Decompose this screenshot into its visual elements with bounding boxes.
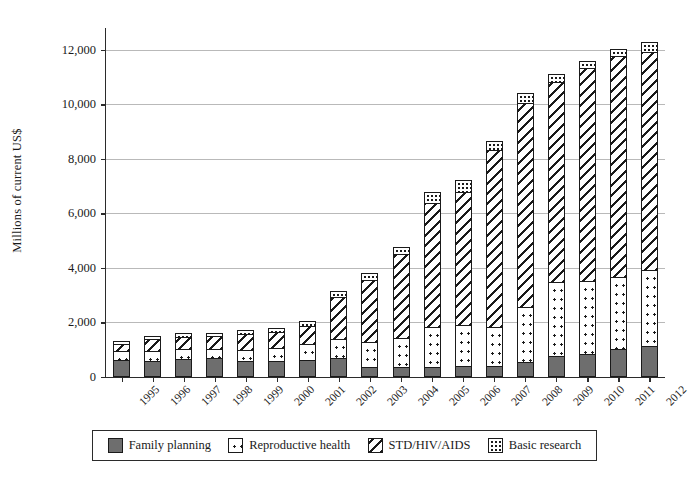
bar-segment-std-hiv-aids (455, 192, 472, 326)
bar-segment-std-hiv-aids (144, 339, 161, 351)
x-axis-tick-label: 2012 (664, 383, 689, 408)
bar-segment-family-planning (455, 366, 472, 377)
x-axis-tick (277, 377, 278, 382)
bar-2002 (330, 291, 347, 377)
x-axis-tick (153, 377, 154, 382)
bar-segment-std-hiv-aids (393, 254, 410, 338)
x-axis-tick (339, 377, 340, 382)
bar-segment-basic-research (175, 333, 192, 336)
legend-swatch-icon (108, 438, 123, 453)
bar-segment-basic-research (641, 42, 658, 52)
x-axis-tick (587, 377, 588, 382)
legend-item-basic-research[interactable]: Basic research (488, 438, 582, 453)
bar-segment-family-planning (548, 356, 565, 377)
x-axis-tick-label: 1998 (229, 383, 254, 408)
legend-item-family-planning[interactable]: Family planning (108, 438, 211, 453)
x-axis-tick-label: 2008 (540, 383, 565, 408)
y-axis-line (105, 28, 106, 377)
y-axis-tick (101, 213, 106, 214)
x-axis-tick-label: 2004 (416, 383, 441, 408)
y-axis-tick (101, 159, 106, 160)
x-axis-tick (649, 377, 650, 382)
legend-swatch-icon (488, 438, 503, 453)
bar-segment-std-hiv-aids (579, 68, 596, 280)
y-axis-tick-label: 2,000 (24, 315, 96, 330)
bar-segment-basic-research (579, 61, 596, 68)
bar-segment-reproductive-health (268, 348, 285, 361)
y-axis-tick (101, 377, 106, 378)
x-axis-tick-label: 2009 (571, 383, 596, 408)
x-axis-tick-label: 2006 (478, 383, 503, 408)
x-axis-tick (463, 377, 464, 382)
bar-segment-family-planning (144, 361, 161, 377)
bar-1997 (175, 333, 192, 377)
x-axis-tick (308, 377, 309, 382)
x-axis-tick-label: 2007 (509, 383, 534, 408)
x-axis-tick-label: 1996 (167, 383, 192, 408)
legend-swatch-icon (228, 438, 243, 453)
bar-segment-basic-research (610, 49, 627, 56)
y-axis-tick-label: 8,000 (24, 151, 96, 166)
x-axis-tick (215, 377, 216, 382)
bar-segment-std-hiv-aids (237, 334, 254, 350)
bar-2003 (361, 273, 378, 377)
x-axis-tick-label: 2002 (354, 383, 379, 408)
bar-segment-reproductive-health (113, 351, 130, 360)
y-axis-tick-label: 0 (24, 370, 96, 385)
chart-legend: Family planningReproductive healthSTD/HI… (92, 430, 597, 461)
y-axis-tick (101, 268, 106, 269)
bar-2007 (486, 141, 503, 377)
x-axis-tick-label: 2011 (633, 383, 657, 407)
x-axis-tick (618, 377, 619, 382)
plot-area (106, 28, 665, 377)
legend-item-std-hiv-aids[interactable]: STD/HIV/AIDS (368, 438, 471, 453)
y-axis-tick (101, 104, 106, 105)
bar-segment-basic-research (455, 180, 472, 191)
bar-segment-family-planning (424, 367, 441, 377)
bar-segment-std-hiv-aids (610, 56, 627, 277)
x-axis-tick (246, 377, 247, 382)
bar-segment-std-hiv-aids (206, 336, 223, 349)
bar-2006 (455, 180, 472, 377)
x-axis-tick (401, 377, 402, 382)
bar-segment-reproductive-health (175, 349, 192, 359)
bar-segment-reproductive-health (361, 342, 378, 367)
bar-segment-std-hiv-aids (299, 326, 316, 344)
bar-segment-reproductive-health (299, 344, 316, 361)
x-axis-tick-label: 1995 (136, 383, 161, 408)
bar-1995 (113, 341, 130, 377)
bar-segment-basic-research (268, 328, 285, 332)
bar-segment-family-planning (299, 360, 316, 377)
bar-2010 (579, 61, 596, 377)
bar-segment-reproductive-health (548, 282, 565, 356)
x-axis-tick (432, 377, 433, 382)
bar-segment-basic-research (206, 333, 223, 336)
bar-2001 (299, 321, 316, 377)
bar-1996 (144, 336, 161, 377)
bar-segment-family-planning (237, 361, 254, 377)
bar-segment-std-hiv-aids (517, 103, 534, 307)
bar-segment-reproductive-health (144, 351, 161, 360)
x-axis-tick (494, 377, 495, 382)
y-axis-tick-label: 12,000 (24, 42, 96, 57)
bar-segment-family-planning (610, 349, 627, 377)
bar-segment-family-planning (393, 367, 410, 377)
bar-segment-std-hiv-aids (486, 150, 503, 327)
bar-segment-basic-research (393, 247, 410, 254)
bar-segment-std-hiv-aids (424, 203, 441, 327)
bar-2011 (610, 49, 627, 377)
bar-2005 (424, 192, 441, 377)
y-axis-tick-label: 10,000 (24, 97, 96, 112)
bar-segment-family-planning (361, 367, 378, 377)
bar-segment-family-planning (641, 346, 658, 377)
x-axis-tick-label: 2005 (447, 383, 472, 408)
bar-2012 (641, 42, 658, 377)
bar-segment-basic-research (113, 341, 130, 344)
x-axis-tick-label: 1997 (198, 383, 223, 408)
legend-label: Basic research (509, 438, 582, 453)
legend-item-reproductive-health[interactable]: Reproductive health (228, 438, 350, 453)
bar-segment-basic-research (424, 192, 441, 203)
bar-2008 (517, 93, 534, 377)
bar-segment-basic-research (330, 291, 347, 298)
bar-segment-family-planning (175, 359, 192, 377)
